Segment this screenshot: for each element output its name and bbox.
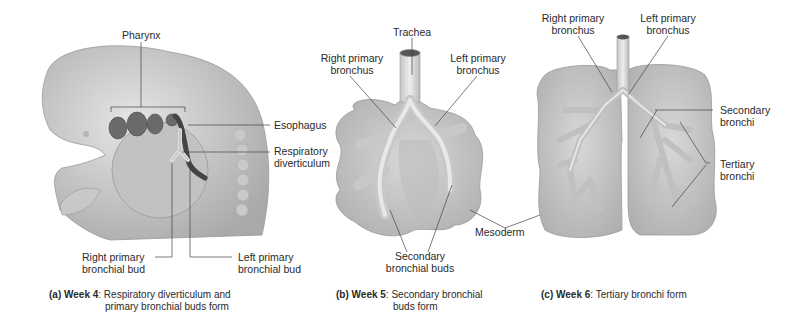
- label-respiratory-diverticulum-line2: diverticulum: [274, 157, 330, 169]
- label-tertiary-bronchi-line2: bronchi: [720, 170, 754, 182]
- label-left-primary-bronchial-bud-line2: bronchial bud: [238, 263, 301, 275]
- caption-b-prefix: (b): [336, 289, 349, 300]
- label-b-left-primary-bronchus-line1: Left primary: [448, 52, 508, 64]
- caption-b-text-line1: : Secondary bronchial: [386, 289, 483, 300]
- caption-a-text-line1: : Respiratory diverticulum and: [98, 289, 230, 300]
- label-b-left-primary-bronchus-line2: bronchus: [448, 64, 508, 76]
- week6-lungs-figure: [537, 35, 716, 238]
- label-left-primary-bronchial-bud-line1: Left primary: [238, 251, 293, 263]
- label-pharynx: Pharynx: [122, 29, 161, 41]
- label-b-right-primary-bronchus-line2: bronchus: [318, 64, 386, 76]
- label-tertiary-bronchi-line1: Tertiary: [720, 158, 754, 170]
- caption-a-week: Week 4: [64, 289, 98, 300]
- caption-b-line2: buds form: [393, 301, 437, 313]
- label-c-right-primary-bronchus-line2: bronchus: [540, 24, 606, 36]
- caption-b: (b) Week 5: Secondary bronchial: [336, 289, 483, 301]
- label-secondary-bronchi-line2: bronchi: [720, 116, 754, 128]
- label-b-right-primary-bronchus-line1: Right primary: [318, 52, 386, 64]
- label-secondary-bronchi-line1: Secondary: [720, 104, 770, 116]
- caption-c-prefix: (c): [541, 289, 553, 300]
- week5-lung-bud-figure: [336, 50, 483, 236]
- caption-c: (c) Week 6: Tertiary bronchi form: [541, 289, 687, 301]
- label-c-right-primary-bronchus-line1: Right primary: [540, 12, 606, 24]
- label-respiratory-diverticulum-line1: Respiratory: [274, 145, 328, 157]
- label-right-primary-bronchial-bud-line1: Right primary: [82, 251, 144, 263]
- label-right-primary-bronchial-bud-line2: bronchial bud: [82, 263, 145, 275]
- caption-b-week: Week 5: [352, 289, 386, 300]
- label-esophagus: Esophagus: [274, 119, 327, 131]
- caption-c-text-line1: : Tertiary bronchi form: [590, 289, 687, 300]
- embryo-week4-figure: [42, 46, 269, 240]
- caption-a: (a) Week 4: Respiratory diverticulum and: [49, 289, 231, 301]
- label-trachea: Trachea: [393, 26, 431, 38]
- label-c-left-primary-bronchus-line1: Left primary: [638, 12, 698, 24]
- caption-a-prefix: (a): [49, 289, 61, 300]
- label-c-left-primary-bronchus-line2: bronchus: [638, 24, 698, 36]
- label-secondary-bronchial-buds-line1: Secondary: [382, 250, 458, 262]
- caption-c-week: Week 6: [556, 289, 590, 300]
- caption-a-line2: primary bronchial buds form: [105, 301, 229, 313]
- label-secondary-bronchial-buds-line2: bronchial buds: [382, 262, 458, 274]
- label-mesoderm: Mesoderm: [475, 226, 525, 238]
